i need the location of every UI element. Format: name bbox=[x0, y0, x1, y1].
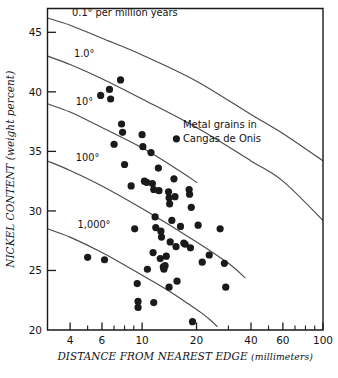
chart-canvas: 0.1° per million years1.0°10°100°1,000°M… bbox=[0, 0, 338, 378]
data-point bbox=[97, 92, 104, 99]
data-point bbox=[206, 251, 213, 258]
data-point bbox=[134, 280, 141, 287]
x-axis-title-unit: (millimeters) bbox=[251, 351, 313, 362]
data-point bbox=[138, 131, 145, 138]
data-point bbox=[144, 266, 151, 273]
y-axis-ticks: 202530354045 bbox=[29, 26, 56, 336]
data-point bbox=[167, 238, 174, 245]
data-point bbox=[128, 182, 135, 189]
data-point bbox=[166, 200, 173, 207]
data-point bbox=[110, 141, 117, 148]
legend: Metal grains inCangas de Onis bbox=[173, 119, 261, 145]
data-point bbox=[131, 225, 138, 232]
data-point bbox=[134, 304, 141, 311]
x-tick-label: 4 bbox=[67, 334, 74, 346]
x-tick-label: 40 bbox=[244, 334, 257, 346]
data-point bbox=[163, 253, 170, 260]
scatter-points bbox=[84, 76, 229, 325]
legend-marker-icon bbox=[173, 135, 180, 142]
legend-line-1: Metal grains in bbox=[183, 119, 257, 130]
y-tick-label: 20 bbox=[29, 324, 42, 336]
legend-line-2: Cangas de Onis bbox=[183, 133, 261, 144]
x-tick-label: 6 bbox=[99, 334, 106, 346]
data-point bbox=[118, 120, 125, 127]
curve-label-4: 1,000° bbox=[78, 219, 111, 230]
data-point bbox=[106, 86, 113, 93]
data-point bbox=[84, 254, 91, 261]
x-axis-ticks: 4610204060100 bbox=[67, 323, 333, 346]
data-point bbox=[107, 95, 114, 102]
data-point bbox=[155, 187, 162, 194]
data-point bbox=[152, 213, 159, 220]
curve-label-1: 1.0° bbox=[74, 48, 94, 59]
curve-label-2: 10° bbox=[76, 96, 93, 107]
nickel-content-scatter-chart: 0.1° per million years1.0°10°100°1,000°M… bbox=[0, 0, 338, 378]
y-tick-label: 45 bbox=[29, 26, 42, 38]
data-point bbox=[150, 299, 157, 306]
data-point bbox=[119, 129, 126, 136]
x-tick-label: 20 bbox=[190, 334, 203, 346]
data-point bbox=[189, 318, 196, 325]
y-tick-label: 40 bbox=[29, 86, 42, 98]
y-tick-label: 25 bbox=[29, 264, 42, 276]
data-point bbox=[187, 244, 194, 251]
x-tick-label: 60 bbox=[276, 334, 289, 346]
data-point bbox=[222, 284, 229, 291]
data-point bbox=[172, 243, 179, 250]
data-point bbox=[217, 225, 224, 232]
data-point bbox=[101, 256, 108, 263]
y-axis-title: NICKEL CONTENT (weight percent) bbox=[4, 71, 16, 269]
y-tick-label: 30 bbox=[29, 205, 42, 217]
x-tick-label: 10 bbox=[135, 334, 148, 346]
cooling-rate-curves bbox=[48, 18, 324, 326]
x-tick-label: 100 bbox=[313, 334, 333, 346]
data-point bbox=[121, 161, 128, 168]
data-point bbox=[173, 278, 180, 285]
data-point bbox=[199, 259, 206, 266]
data-point bbox=[158, 234, 165, 241]
data-point bbox=[221, 260, 228, 267]
data-point bbox=[149, 249, 156, 256]
data-point bbox=[149, 180, 156, 187]
cooling-rate-curve-4 bbox=[48, 229, 218, 327]
curve-label-3: 100° bbox=[76, 152, 100, 163]
x-axis-title: DISTANCE FROM NEAREST EDGE (millimeters) bbox=[56, 350, 313, 362]
data-point bbox=[117, 76, 124, 83]
data-point bbox=[188, 204, 195, 211]
data-point bbox=[170, 175, 177, 182]
curve-labels: 0.1° per million years1.0°10°100°1,000° bbox=[72, 7, 178, 230]
data-point bbox=[171, 193, 178, 200]
y-tick-label: 35 bbox=[29, 145, 42, 157]
data-point bbox=[195, 222, 202, 229]
data-point bbox=[139, 143, 146, 150]
x-axis-title-main: DISTANCE FROM NEAREST EDGE bbox=[56, 350, 251, 362]
data-point bbox=[161, 262, 168, 269]
data-point bbox=[177, 223, 184, 230]
data-point bbox=[168, 217, 175, 224]
data-point bbox=[155, 164, 162, 171]
data-point bbox=[186, 191, 193, 198]
data-point bbox=[165, 284, 172, 291]
data-point bbox=[147, 149, 154, 156]
axis-titles: DISTANCE FROM NEAREST EDGE (millimeters)… bbox=[4, 71, 313, 362]
